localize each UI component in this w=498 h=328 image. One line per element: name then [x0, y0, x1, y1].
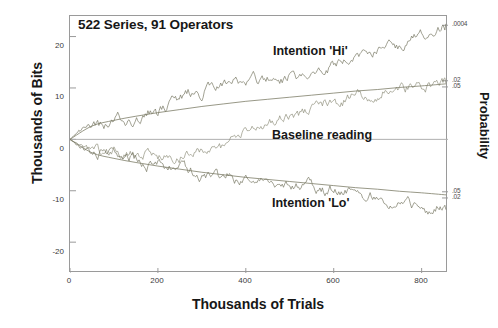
- x-axis-label: Thousands of Trials: [69, 296, 447, 312]
- annotation-intention-hi: Intention 'Hi': [273, 44, 348, 58]
- y-tick-label: 20: [55, 41, 64, 50]
- x-tick-label: 0: [49, 276, 89, 285]
- annotation-intention-lo: Intention 'Lo': [272, 196, 349, 210]
- y-tick-label: -20: [52, 247, 64, 256]
- chart-title: 522 Series, 91 Operators: [78, 17, 233, 32]
- x-tick-label: 200: [137, 276, 177, 285]
- series-baseline-reading: [70, 78, 446, 164]
- series-canvas: [70, 16, 448, 273]
- probability-tick-label: .05: [452, 82, 460, 89]
- plot-area: [69, 15, 447, 272]
- y-tick-label: -10: [52, 195, 64, 204]
- x-axis-ticks: 0 200 400 600 800: [0, 276, 498, 292]
- series-lower-significance-envelope: [70, 139, 446, 195]
- axis-tick-marks: [70, 25, 448, 273]
- probability-tick-label: .0004: [452, 20, 467, 27]
- probability-tick-label: .02: [452, 193, 460, 200]
- y-tick-label: 0: [60, 144, 64, 153]
- x-tick-label: 800: [401, 276, 441, 285]
- chart-figure: Thousands of Bits 20 10 0 -10 -20 522 Se…: [0, 0, 498, 328]
- y-tick-label: 10: [55, 92, 64, 101]
- x-tick-label: 400: [225, 276, 265, 285]
- data-series-group: [70, 24, 446, 214]
- y-axis-label-right: Probability: [477, 46, 492, 206]
- annotation-baseline-reading: Baseline reading: [272, 128, 372, 142]
- series-intention-hi: [70, 24, 446, 139]
- series-intention-lo: [70, 139, 446, 214]
- x-tick-label: 600: [313, 276, 353, 285]
